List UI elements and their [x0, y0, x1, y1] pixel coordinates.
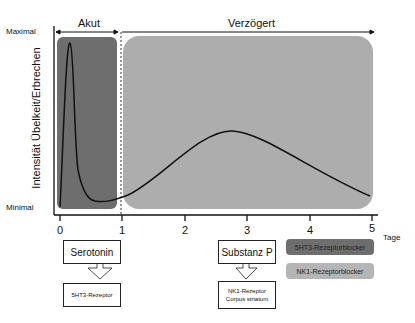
nk1-receptor-box: NK1-Rezeptor Corpus striatum — [218, 281, 276, 309]
delayed-phase-label: Verzögert — [228, 17, 275, 29]
serotonin-box: Serotonin — [63, 240, 121, 264]
legend-nk1-blocker: NK1-Rezeptorblocker — [286, 263, 374, 279]
serotonin-label: Serotonin — [71, 247, 114, 258]
acute-phase-region — [57, 37, 117, 209]
delayed-phase-region — [123, 36, 373, 209]
nk1-receptor-line2: Corpus striatum — [226, 295, 268, 303]
legend-nk1-label: NK1-Rezeptorblocker — [297, 268, 364, 275]
delayed-phase-arrow — [122, 30, 374, 34]
y-axis-title: Intensität Übelkeit/Erbrechen — [30, 47, 42, 188]
legend-5ht3-label: 5HT3-Rezeptorblocker — [295, 244, 365, 251]
x-tick-2: 2 — [182, 224, 188, 236]
acute-phase-label: Akut — [78, 17, 100, 29]
nk1-receptor-line1: NK1-Rezeptor — [228, 287, 266, 295]
substanz-p-label: Substanz P — [221, 247, 272, 258]
substanz-p-box: Substanz P — [218, 240, 276, 264]
x-axis-unit-label: Tage — [383, 233, 400, 242]
x-tick-0: 0 — [57, 224, 63, 236]
acute-phase-arrow — [56, 30, 118, 34]
x-tick-4: 4 — [307, 224, 313, 236]
x-tick-1: 1 — [119, 224, 125, 236]
x-tick-5: 5 — [369, 222, 375, 234]
x-tick-3: 3 — [244, 224, 250, 236]
serotonin-receptor-label: 5HT3-Rezeptor — [71, 291, 112, 299]
substanz-p-down-arrow — [236, 262, 257, 279]
y-axis-max-label: Maximal — [6, 27, 36, 36]
y-axis-min-label: Minimal — [6, 203, 34, 212]
legend-5ht3-blocker: 5HT3-Rezeptorblocker — [286, 239, 374, 255]
x-axis-ticks — [60, 215, 372, 221]
serotonin-receptor-box: 5HT3-Rezeptor — [63, 283, 121, 307]
serotonin-down-arrow — [88, 262, 112, 279]
